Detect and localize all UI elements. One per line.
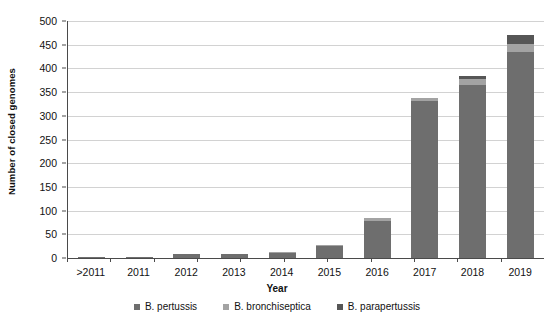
y-axis-tick-label: 350 (39, 86, 57, 98)
legend-label: B. bronchiseptica (234, 301, 311, 312)
y-axis-tick-mark (62, 115, 66, 116)
y-axis-tick-mark (62, 68, 66, 69)
legend-item[interactable]: B. parapertussis (337, 301, 420, 312)
y-axis-tick-label: 450 (39, 39, 57, 51)
y-axis-tick-labels: 050100150200250300350400450500 (22, 15, 62, 263)
x-axis-tick-mark (414, 258, 457, 263)
bar-stack[interactable] (459, 76, 486, 258)
x-axis-tick-label: 2018 (449, 266, 497, 278)
bar-slot (68, 21, 116, 258)
legend-label: B. pertussis (145, 301, 197, 312)
y-axis-tick-label: 150 (39, 181, 57, 193)
x-axis-tick-mark (284, 258, 327, 263)
legend-swatch-icon (223, 304, 229, 310)
x-axis-tick-mark (240, 258, 283, 263)
bar-segment[interactable] (364, 221, 391, 258)
bar-segment[interactable] (459, 85, 486, 258)
bar-stack[interactable] (316, 245, 343, 258)
x-axis-tick-mark (197, 258, 240, 263)
x-axis-tick-mark (501, 258, 544, 263)
bar-slot (354, 21, 402, 258)
bar-slot (258, 21, 306, 258)
y-axis-title-text: Number of closed genomes (6, 68, 17, 195)
y-axis-tick-label: 0 (51, 252, 57, 264)
y-axis-tick-mark (62, 163, 66, 164)
legend-item[interactable]: B. bronchiseptica (223, 301, 311, 312)
x-axis-tick-label: 2013 (210, 266, 258, 278)
bar-segment[interactable] (316, 246, 343, 258)
plot-area (67, 21, 544, 259)
bar-segment[interactable] (507, 52, 534, 258)
legend-label: B. parapertussis (348, 301, 420, 312)
bar-segment[interactable] (507, 35, 534, 44)
x-axis-tick-mark (110, 258, 153, 263)
x-axis-tick-label: 2019 (496, 266, 544, 278)
y-axis-tick-label: 250 (39, 134, 57, 146)
y-axis-tick-label: 100 (39, 205, 57, 217)
x-axis-tick-label: 2017 (401, 266, 449, 278)
x-axis-tick-label: 2012 (162, 266, 210, 278)
y-axis-tick-label: 50 (45, 228, 57, 240)
bars-layer (68, 21, 544, 258)
x-axis-tick-mark (457, 258, 500, 263)
x-axis-tick-label: 2011 (115, 266, 163, 278)
x-axis-tick-mark (67, 258, 110, 263)
bar-slot (496, 21, 544, 258)
y-axis-tick-label: 400 (39, 62, 57, 74)
x-axis-tick-marks (67, 258, 544, 263)
y-axis-tick-mark (62, 44, 66, 45)
legend-swatch-icon (134, 304, 140, 310)
bar-slot (306, 21, 354, 258)
bar-slot (211, 21, 259, 258)
bar-slot (401, 21, 449, 258)
bar-stack[interactable] (364, 218, 391, 258)
y-axis-tick-mark (62, 234, 66, 235)
x-axis-tick-mark (327, 258, 370, 263)
legend-swatch-icon (337, 304, 343, 310)
y-axis-tick-label: 300 (39, 110, 57, 122)
x-axis-tick-label: 2015 (306, 266, 354, 278)
x-axis-tick-labels: >201120112012201320142015201620172018201… (67, 266, 544, 278)
chart-legend: B. pertussisB. bronchisepticaB. parapert… (0, 301, 554, 312)
x-axis-title: Year (0, 283, 554, 294)
bar-segment[interactable] (507, 44, 534, 52)
y-axis-tick-mark (62, 139, 66, 140)
bar-slot (116, 21, 164, 258)
y-axis-tick-mark (62, 21, 66, 22)
x-axis-tick-mark (371, 258, 414, 263)
bar-stack[interactable] (507, 35, 534, 258)
x-axis-tick-label: >2011 (67, 266, 115, 278)
bar-chart: Number of closed genomes 050100150200250… (0, 0, 554, 329)
x-axis-tick-label: 2016 (353, 266, 401, 278)
y-axis-tick-mark (62, 258, 66, 259)
x-axis-tick-label: 2014 (258, 266, 306, 278)
y-axis-tick-mark (62, 210, 66, 211)
bar-segment[interactable] (411, 101, 438, 258)
y-axis-tick-mark (62, 92, 66, 93)
bar-slot (163, 21, 211, 258)
y-axis-tick-mark (62, 186, 66, 187)
bar-slot (449, 21, 497, 258)
y-axis-tick-label: 500 (39, 15, 57, 27)
y-axis-tick-label: 200 (39, 157, 57, 169)
bar-stack[interactable] (411, 98, 438, 258)
legend-item[interactable]: B. pertussis (134, 301, 197, 312)
y-axis-title: Number of closed genomes (0, 0, 22, 262)
plot-wrapper: 050100150200250300350400450500 (22, 15, 550, 263)
x-axis-tick-mark (154, 258, 197, 263)
